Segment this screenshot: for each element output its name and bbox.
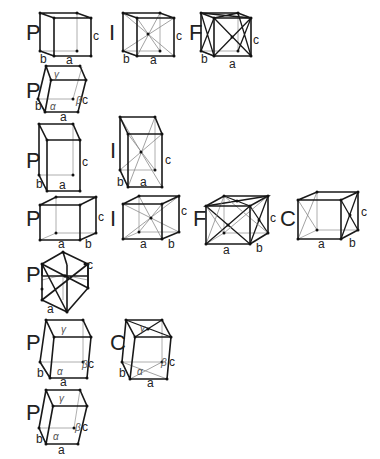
axis-c-label: c (181, 204, 187, 218)
orthorhombic-c-cell: C c b a (280, 191, 367, 252)
axis-b-label: b (40, 52, 47, 66)
orthorhombic-p-cell: P c b a (26, 196, 104, 252)
axis-b-label: b (119, 366, 126, 380)
axis-b-label: b (36, 432, 43, 446)
axis-c-label: c (93, 29, 99, 43)
hexagonal-p-cell: P c a (26, 251, 93, 317)
monoclinic-p-cell: P γ α β c b a (26, 319, 94, 390)
axis-a-label: a (229, 57, 236, 71)
lattice-type-label: P (26, 262, 41, 287)
triclinic-p-cell: P γ α β c b a (26, 65, 88, 125)
monoclinic-c-cell: C γ α β c b a (110, 319, 175, 391)
angle-beta-label: β (75, 95, 82, 106)
axis-b-label: b (37, 366, 44, 380)
axis-a-label: a (223, 243, 230, 257)
angle-gamma-label: γ (59, 393, 65, 404)
axis-c-label: c (176, 29, 182, 43)
axis-a-label: a (140, 175, 147, 189)
angle-gamma-label: γ (54, 69, 60, 80)
axis-b-label: b (256, 241, 263, 255)
axis-c-label: c (165, 153, 171, 167)
axis-a-label: a (47, 302, 54, 316)
cubic-p-cell: P c b a (26, 12, 99, 68)
axis-a-label: a (140, 237, 147, 251)
lattice-type-label: P (26, 20, 41, 45)
axis-a-label: a (66, 53, 73, 67)
axis-a-label: a (318, 237, 325, 251)
axis-b-label: b (201, 52, 208, 66)
axis-c-label: c (361, 205, 367, 219)
axis-c-label: c (169, 355, 175, 369)
axis-c-label: c (270, 211, 276, 225)
cubic-i-cell: I c b a (109, 12, 182, 68)
angle-gamma-label: γ (61, 324, 67, 335)
axis-a-label: a (60, 110, 67, 124)
lattice-type-label: C (280, 206, 296, 231)
angle-beta-label: β (74, 422, 81, 433)
lattice-type-label: I (110, 206, 116, 231)
axis-c-label: c (98, 210, 104, 224)
lattice-type-label: P (26, 400, 41, 425)
angle-alpha-label: α (137, 366, 143, 377)
axis-c-label: c (87, 258, 93, 272)
axis-c-label: c (82, 155, 88, 169)
lattice-type-label: F (193, 206, 206, 231)
axis-c-label: c (82, 93, 88, 107)
axis-b-label: b (36, 177, 43, 191)
axis-c-label: c (253, 33, 259, 47)
axis-b-label: b (85, 237, 92, 251)
axis-b-label: b (35, 99, 42, 113)
orthorhombic-f-cell: F c b a (193, 195, 276, 258)
tetragonal-p-cell: P c b a (26, 123, 88, 193)
angle-alpha-label: α (53, 431, 59, 442)
orthorhombic-i-cell: I c b a (110, 195, 187, 252)
axis-a-label: a (59, 178, 66, 192)
axis-c-label: c (82, 420, 88, 434)
lattice-type-label: I (109, 20, 115, 45)
lattice-type-label: P (26, 206, 41, 231)
axis-a-label: a (58, 443, 65, 457)
lattice-type-label: P (26, 330, 41, 355)
tetragonal-i-cell: I c b a (110, 116, 171, 190)
angle-alpha-label: α (50, 101, 56, 112)
axis-a-label: a (58, 237, 65, 251)
axis-a-label: a (147, 376, 154, 390)
angle-gamma-label: γ (140, 323, 146, 334)
angle-beta-label: β (81, 359, 88, 370)
rhombohedral-p-cell: P γ α β c b a (26, 389, 89, 458)
axis-a-label: a (60, 375, 67, 389)
axis-b-label: b (123, 52, 130, 66)
axis-c-label: c (88, 357, 94, 371)
axis-b-label: b (349, 236, 356, 250)
axis-b-label: b (117, 175, 124, 189)
axis-a-label: a (150, 53, 157, 67)
cubic-f-cell: F c b a (189, 12, 259, 72)
lattice-type-label: I (110, 138, 116, 163)
angle-beta-label: β (160, 357, 167, 368)
axis-b-label: b (168, 237, 175, 251)
bravais-lattice-diagram: P c b a I c b a F c b a P γ α (0, 0, 380, 459)
